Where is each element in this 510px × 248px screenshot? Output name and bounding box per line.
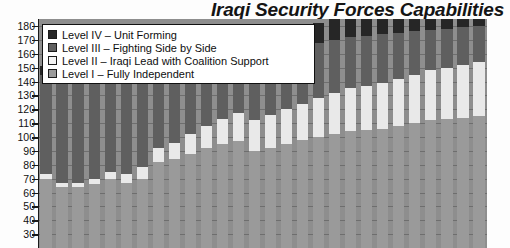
bar-segment-level-4 xyxy=(329,19,340,40)
table-row xyxy=(345,44,356,248)
bar-segment-level-2 xyxy=(201,126,212,148)
bar-segment-level-3 xyxy=(441,29,452,68)
legend-swatch-level-iii xyxy=(48,43,57,52)
y-axis-tick-label: 100 xyxy=(1,132,35,142)
bar-segment-level-1 xyxy=(329,134,340,248)
bar-segment-level-1 xyxy=(313,137,324,248)
bar-segment-level-2 xyxy=(72,183,83,187)
bar-segment-level-2 xyxy=(393,79,404,126)
bar-segment-level-2 xyxy=(313,98,324,137)
y-axis-tick-label: 90 xyxy=(1,146,35,156)
bar-segment-level-1 xyxy=(473,116,484,248)
y-axis-tick-mark xyxy=(32,179,38,181)
bar-segment-level-3 xyxy=(72,77,83,182)
y-axis-tick-mark xyxy=(32,82,38,84)
legend-swatch-level-iv xyxy=(48,30,57,39)
bar-segment-level-3 xyxy=(89,70,100,178)
chart-legend: Level IV – Unit Forming Level III – Figh… xyxy=(42,24,315,84)
bar-segment-level-3 xyxy=(345,37,356,88)
table-row xyxy=(217,62,228,248)
bar-segment-level-2 xyxy=(377,83,388,129)
y-axis-tick-label: 170 xyxy=(1,35,35,45)
bar-segment-level-2 xyxy=(217,119,228,144)
bar-segment-level-2 xyxy=(361,86,372,130)
bar-segment-level-4 xyxy=(441,19,452,29)
bar-segment-level-4 xyxy=(393,19,404,33)
bar-segment-level-2 xyxy=(233,113,244,141)
table-row xyxy=(409,38,420,248)
bar-segment-level-2 xyxy=(297,104,308,140)
table-row xyxy=(457,34,468,248)
bar-segment-level-1 xyxy=(72,187,83,248)
bar-segment-level-1 xyxy=(425,120,436,248)
bar-segment-level-2 xyxy=(56,183,67,187)
y-axis-tick-label: 40 xyxy=(1,215,35,225)
bar-segment-level-4 xyxy=(409,19,420,31)
chart-title: Iraqi Security Forces Capabilities xyxy=(211,0,504,21)
legend-item: Level IV – Unit Forming xyxy=(48,28,309,41)
legend-swatch-level-i xyxy=(48,69,57,78)
y-axis-tick-label: 110 xyxy=(1,118,35,128)
legend-item: Level I – Fully Independent xyxy=(48,67,309,80)
table-row xyxy=(169,72,180,248)
bar-segment-level-2 xyxy=(329,93,340,135)
bar-segment-level-2 xyxy=(441,68,452,119)
table-row xyxy=(201,65,212,248)
y-axis-tick-label: 140 xyxy=(1,77,35,87)
y-axis-tick-label: 130 xyxy=(1,90,35,100)
y-axis-tick-label: 150 xyxy=(1,63,35,73)
bar-segment-level-4 xyxy=(361,19,372,36)
bar-segment-level-1 xyxy=(409,123,420,248)
y-axis-tick-mark xyxy=(32,109,38,111)
table-row xyxy=(105,76,116,248)
bar-segment-level-1 xyxy=(89,184,100,248)
legend-item: Level II – Iraqi Lead with Coalition Sup… xyxy=(48,54,309,67)
bar-segment-level-1 xyxy=(377,129,388,248)
y-axis-tick-label: 60 xyxy=(1,188,35,198)
bar-segment-level-1 xyxy=(361,130,372,248)
bar-segment-level-2 xyxy=(281,109,292,144)
bar-segment-level-1 xyxy=(457,118,468,248)
bar-segment-level-4 xyxy=(473,19,484,26)
bar-segment-level-2 xyxy=(89,179,100,185)
bar-segment-level-2 xyxy=(137,167,148,178)
table-row xyxy=(361,43,372,248)
y-axis-tick-mark xyxy=(32,123,38,125)
bar-segment-level-1 xyxy=(40,179,51,248)
table-row xyxy=(377,41,388,248)
legend-label-level-ii: Level II – Iraqi Lead with Coalition Sup… xyxy=(62,55,269,67)
y-axis-tick-label: 80 xyxy=(1,160,35,170)
legend-label-level-iv: Level IV – Unit Forming xyxy=(62,29,177,41)
table-row xyxy=(56,97,67,248)
legend-label-level-i: Level I – Fully Independent xyxy=(62,68,194,80)
table-row xyxy=(89,87,100,248)
bar-segment-level-1 xyxy=(393,126,404,248)
y-axis-tick-mark xyxy=(32,40,38,42)
bar-segment-level-2 xyxy=(457,65,468,118)
y-axis-tick-mark xyxy=(32,151,38,153)
bar-segment-level-2 xyxy=(249,120,260,151)
bar-segment-level-4 xyxy=(425,19,436,30)
bar-segment-level-3 xyxy=(361,36,372,86)
y-axis-tick-mark xyxy=(32,206,38,208)
chart-container: Iraqi Security Forces Capabilities 18017… xyxy=(0,0,510,248)
y-axis-tick-label: 50 xyxy=(1,201,35,211)
table-row xyxy=(137,72,148,248)
bar-segment-level-4 xyxy=(457,19,468,27)
bar-segment-level-1 xyxy=(105,179,116,248)
table-row xyxy=(265,61,276,248)
y-axis-tick-mark xyxy=(32,165,38,167)
bar-segment-level-3 xyxy=(377,34,388,83)
table-row xyxy=(153,76,164,248)
table-row xyxy=(121,77,132,248)
bar-segment-level-3 xyxy=(473,26,484,62)
table-row xyxy=(393,40,404,248)
bar-segment-level-1 xyxy=(345,131,356,248)
bar-segment-level-1 xyxy=(169,159,180,248)
bar-segment-level-1 xyxy=(137,179,148,248)
table-row xyxy=(425,37,436,248)
table-row xyxy=(72,97,83,248)
bar-segment-level-1 xyxy=(201,148,212,248)
bar-segment-level-2 xyxy=(153,148,164,162)
table-row xyxy=(441,36,452,248)
